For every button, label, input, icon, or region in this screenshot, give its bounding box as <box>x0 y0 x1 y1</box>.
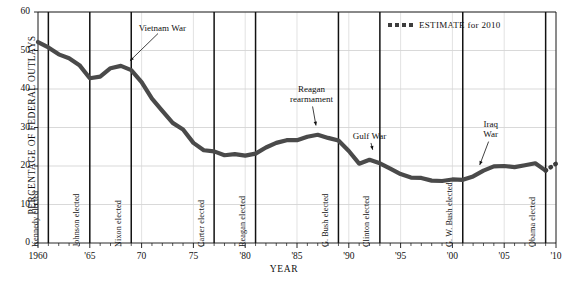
annotation-label: Gulf War <box>353 131 386 142</box>
event-line-label: G. W. Bush elected <box>445 182 454 247</box>
x-axis-tick-label: '90 <box>329 251 369 261</box>
event-line-label: Nixon elected <box>114 200 123 247</box>
event-line-label: Reagan elected <box>238 196 247 247</box>
chart-container: PERCENTAGE OF FEDERAL OUTLAYS YEAR ESTIM… <box>0 0 568 284</box>
y-axis-tick-label: 50 <box>4 45 30 55</box>
x-axis-tick-label: 1960 <box>18 251 58 261</box>
annotation-leader-line <box>130 34 158 61</box>
x-axis-tick-label: '65 <box>70 251 110 261</box>
event-line-label: Clinton elected <box>362 196 371 247</box>
event-line-label: Johnson elected <box>72 193 81 247</box>
x-axis-tick-label: '80 <box>225 251 265 261</box>
annotation-label: IraqWar <box>483 119 498 140</box>
x-axis-tick-label: 75 <box>173 251 213 261</box>
event-line-label: Carter elected <box>197 200 206 247</box>
x-axis-tick-label: 70 <box>122 251 162 261</box>
x-axis-tick-label: '05 <box>484 251 524 261</box>
event-line-label: Obama elected <box>528 197 537 247</box>
y-axis-tick-label: 40 <box>4 83 30 93</box>
series-line-defense <box>38 42 546 181</box>
event-line-label: G. Bush elected <box>321 193 330 247</box>
annotation-label: Reaganrearmament <box>290 84 333 105</box>
plot-area <box>0 0 568 284</box>
annotation-arrowhead-icon <box>479 161 482 165</box>
y-axis-tick-label: 60 <box>4 6 30 16</box>
annotation-arrowhead-icon <box>314 121 317 125</box>
y-axis-tick-label: 0 <box>4 237 30 247</box>
y-axis-tick-label: 10 <box>4 199 30 209</box>
x-axis-tick-label: '95 <box>381 251 421 261</box>
y-axis-tick-label: 30 <box>4 122 30 132</box>
series-line-estimate <box>546 164 556 171</box>
x-axis-tick-label: '85 <box>277 251 317 261</box>
annotation-label: Vietnam War <box>139 23 186 34</box>
x-axis-tick-label: '10 <box>536 251 568 261</box>
event-line-label: Kennedy elected <box>31 191 40 247</box>
x-axis-tick-label: '00 <box>432 251 472 261</box>
y-axis-tick-label: 20 <box>4 160 30 170</box>
